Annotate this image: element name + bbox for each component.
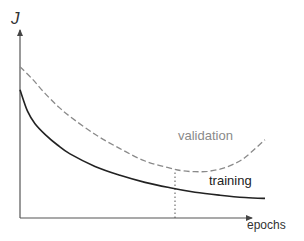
- chart: J epochs validation training: [0, 0, 304, 241]
- y-axis-label: J: [10, 9, 20, 28]
- validation-curve: [20, 67, 265, 172]
- x-axis-label: epochs: [247, 218, 286, 232]
- validation-label: validation: [178, 128, 233, 143]
- training-label: training: [209, 173, 252, 188]
